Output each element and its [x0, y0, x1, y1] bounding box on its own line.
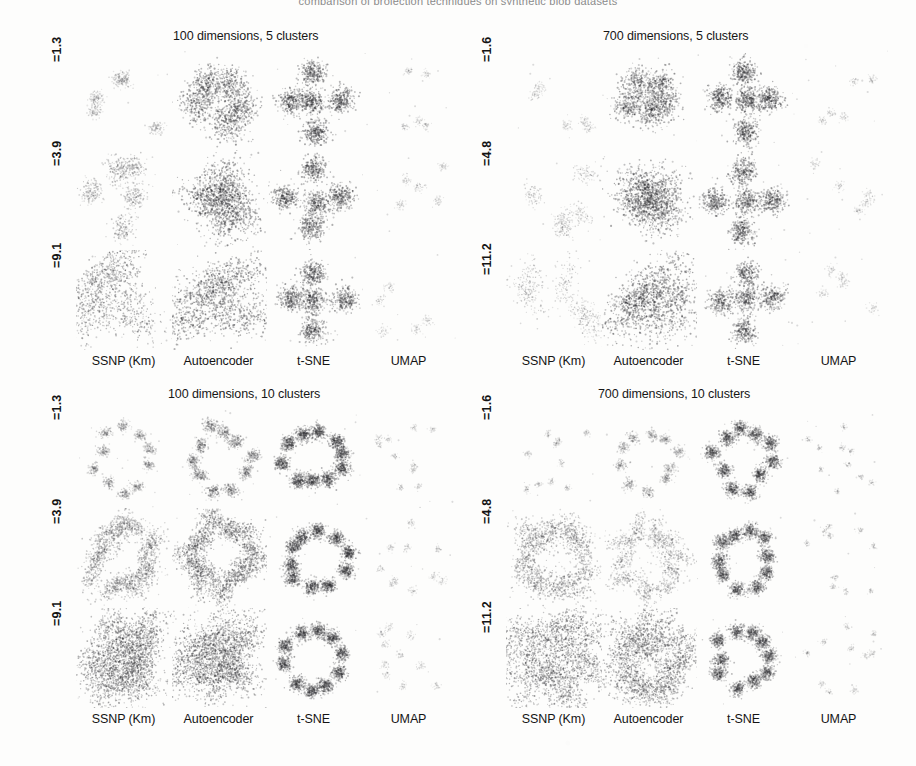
- scatter-canvas: [172, 608, 268, 708]
- scatter-cell-ssnp-km: [506, 608, 602, 708]
- scatter-canvas: [697, 408, 793, 508]
- figure-block-100d-5c: 100 dimensions, 5 clusters =1.3 =3.9 =9.…: [28, 28, 458, 380]
- scatter-canvas: [697, 150, 793, 250]
- row-label-noise: =3.9: [50, 141, 64, 166]
- scatter-canvas: [793, 50, 889, 150]
- scatter-cell-autoencoder: [602, 250, 698, 350]
- scatter-canvas: [363, 250, 459, 350]
- scatter-canvas: [602, 608, 698, 708]
- scatter-canvas: [602, 150, 698, 250]
- scatter-canvas: [363, 50, 459, 150]
- scatter-cell-autoencoder: [602, 408, 698, 508]
- scatter-cell-ssnp-km: [506, 250, 602, 350]
- scatter-cell-umap: [793, 150, 889, 250]
- scatter-cell-t-sne: [267, 250, 363, 350]
- scatter-cell-autoencoder: [172, 150, 268, 250]
- row-label-noise: =9.1: [50, 243, 64, 268]
- scatter-canvas: [506, 608, 602, 708]
- column-label-ssnp: SSNP (Km): [76, 354, 171, 368]
- clipped-top-caption: comparison of projection techniques on s…: [0, 0, 916, 5]
- column-label-umap: UMAP: [791, 354, 886, 368]
- scatter-grid: [76, 50, 458, 350]
- scatter-canvas: [76, 250, 172, 350]
- figure-block-700d-10c: 700 dimensions, 10 clusters =1.6 =4.8 =1…: [458, 386, 888, 738]
- scatter-canvas: [267, 250, 363, 350]
- scatter-cell-autoencoder: [602, 150, 698, 250]
- scatter-cell-umap: [793, 608, 889, 708]
- scatter-canvas: [267, 150, 363, 250]
- scatter-canvas: [267, 608, 363, 708]
- scatter-grid: [506, 408, 888, 708]
- scatter-cell-umap: [793, 50, 889, 150]
- column-label-tsne: t-SNE: [696, 354, 791, 368]
- scatter-cell-autoencoder: [172, 250, 268, 350]
- scatter-canvas: [76, 608, 172, 708]
- scatter-canvas: [793, 508, 889, 608]
- scatter-canvas: [697, 508, 793, 608]
- scatter-canvas: [793, 150, 889, 250]
- column-label-ssnp: SSNP (Km): [506, 712, 601, 726]
- row-label-noise: =4.8: [480, 499, 494, 524]
- scatter-canvas: [602, 50, 698, 150]
- scatter-cell-t-sne: [267, 50, 363, 150]
- scatter-canvas: [76, 150, 172, 250]
- scatter-cell-autoencoder: [602, 50, 698, 150]
- scatter-cell-autoencoder: [172, 508, 268, 608]
- scatter-canvas: [172, 250, 268, 350]
- scatter-cell-t-sne: [697, 608, 793, 708]
- column-label-autoencoder: Autoencoder: [171, 712, 266, 726]
- scatter-cell-t-sne: [697, 50, 793, 150]
- row-label-noise: =1.6: [480, 395, 494, 420]
- block-title: 700 dimensions, 5 clusters: [603, 28, 748, 43]
- scatter-cell-ssnp-km: [76, 508, 172, 608]
- block-title: 100 dimensions, 10 clusters: [168, 386, 320, 401]
- row-label-noise: =9.1: [50, 601, 64, 626]
- scatter-canvas: [267, 408, 363, 508]
- column-label-tsne: t-SNE: [266, 354, 361, 368]
- scatter-canvas: [506, 408, 602, 508]
- scatter-cell-ssnp-km: [506, 50, 602, 150]
- scatter-cell-t-sne: [697, 408, 793, 508]
- column-label-ssnp: SSNP (Km): [76, 712, 171, 726]
- scatter-cell-t-sne: [697, 250, 793, 350]
- scatter-canvas: [267, 508, 363, 608]
- scatter-cell-ssnp-km: [76, 608, 172, 708]
- scatter-canvas: [506, 50, 602, 150]
- scatter-canvas: [172, 408, 268, 508]
- scatter-canvas: [363, 608, 459, 708]
- figure-block-700d-5c: 700 dimensions, 5 clusters =1.6 =4.8 =11…: [458, 28, 888, 380]
- scatter-cell-t-sne: [267, 150, 363, 250]
- figure-block-100d-10c: 100 dimensions, 10 clusters =1.3 =3.9 =9…: [28, 386, 458, 738]
- row-label-noise: =4.8: [480, 141, 494, 166]
- scatter-cell-umap: [363, 608, 459, 708]
- column-label-tsne: t-SNE: [266, 712, 361, 726]
- scatter-cell-t-sne: [697, 150, 793, 250]
- scatter-canvas: [76, 50, 172, 150]
- column-label-umap: UMAP: [361, 354, 456, 368]
- scatter-canvas: [602, 408, 698, 508]
- scatter-cell-ssnp-km: [506, 150, 602, 250]
- scatter-canvas: [506, 150, 602, 250]
- column-label-umap: UMAP: [361, 712, 456, 726]
- column-label-ssnp: SSNP (Km): [506, 354, 601, 368]
- column-label-tsne: t-SNE: [696, 712, 791, 726]
- scatter-grid: [76, 408, 458, 708]
- scatter-cell-ssnp-km: [506, 408, 602, 508]
- row-label-noise: =1.6: [480, 37, 494, 62]
- scatter-cell-t-sne: [267, 408, 363, 508]
- scatter-canvas: [793, 408, 889, 508]
- scatter-canvas: [172, 508, 268, 608]
- scatter-canvas: [793, 250, 889, 350]
- scatter-canvas: [697, 250, 793, 350]
- scatter-cell-ssnp-km: [76, 408, 172, 508]
- scatter-cell-ssnp-km: [506, 508, 602, 608]
- scatter-canvas: [172, 50, 268, 150]
- scatter-cell-autoencoder: [602, 608, 698, 708]
- scatter-canvas: [697, 50, 793, 150]
- scatter-cell-umap: [363, 408, 459, 508]
- scatter-canvas: [172, 150, 268, 250]
- scatter-cell-umap: [793, 250, 889, 350]
- scatter-canvas: [363, 408, 459, 508]
- row-label-noise: =11.2: [480, 601, 494, 633]
- scatter-cell-umap: [793, 408, 889, 508]
